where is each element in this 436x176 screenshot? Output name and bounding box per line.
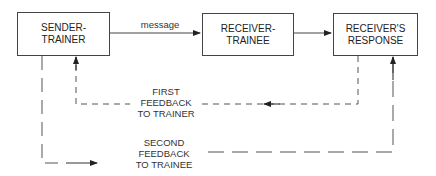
- label-line: TO TRAINER: [130, 108, 202, 119]
- box-label: RESPONSE: [348, 35, 404, 47]
- receiver-trainee-box: RECEIVER- TRAINEE: [202, 13, 294, 56]
- label-line: FEEDBACK: [130, 97, 202, 108]
- second-feedback-label: SECOND FEEDBACK TO TRAINEE: [128, 137, 200, 170]
- box-label: RECEIVER-: [221, 23, 275, 35]
- receivers-response-box: RECEIVER'S RESPONSE: [333, 13, 418, 56]
- sender-trainer-box: SENDER- TRAINER: [17, 12, 110, 56]
- box-label: TRAINEE: [226, 35, 269, 47]
- label-line: SECOND: [128, 137, 200, 148]
- first-feedback-label: FIRST FEEDBACK TO TRAINER: [130, 86, 202, 119]
- message-label: message: [130, 19, 190, 30]
- label-line: FEEDBACK: [128, 148, 200, 159]
- box-label: TRAINER: [42, 34, 86, 46]
- label-line: TO TRAINEE: [128, 159, 200, 170]
- label-line: FIRST: [130, 86, 202, 97]
- box-label: RECEIVER'S: [346, 23, 406, 35]
- second-feedback-path-left: [42, 56, 58, 163]
- first-feedback-path: [76, 56, 358, 104]
- box-label: SENDER-: [41, 22, 86, 34]
